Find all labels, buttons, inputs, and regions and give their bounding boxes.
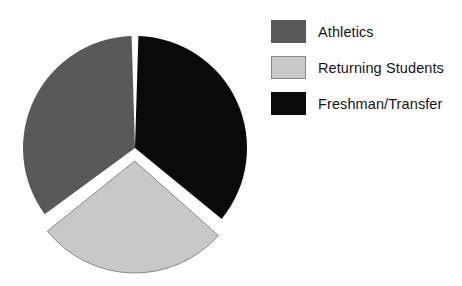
legend-swatch-freshman-transfer xyxy=(271,92,306,115)
legend-item-freshman-transfer[interactable]: Freshman/Transfer xyxy=(271,92,462,115)
legend-swatch-returning-students xyxy=(271,56,306,79)
chart-legend: Athletics Returning Students Freshman/Tr… xyxy=(271,20,462,128)
legend-item-returning-students[interactable]: Returning Students xyxy=(271,56,462,79)
pie-chart-figure: Athletics Returning Students Freshman/Tr… xyxy=(0,0,462,286)
legend-label-freshman-transfer: Freshman/Transfer xyxy=(318,96,442,112)
legend-label-returning-students: Returning Students xyxy=(318,60,444,76)
legend-label-athletics: Athletics xyxy=(318,24,374,40)
legend-swatch-athletics xyxy=(271,20,306,43)
legend-item-athletics[interactable]: Athletics xyxy=(271,20,462,43)
pie-svg xyxy=(0,0,262,286)
pie-plot-area xyxy=(0,0,262,286)
